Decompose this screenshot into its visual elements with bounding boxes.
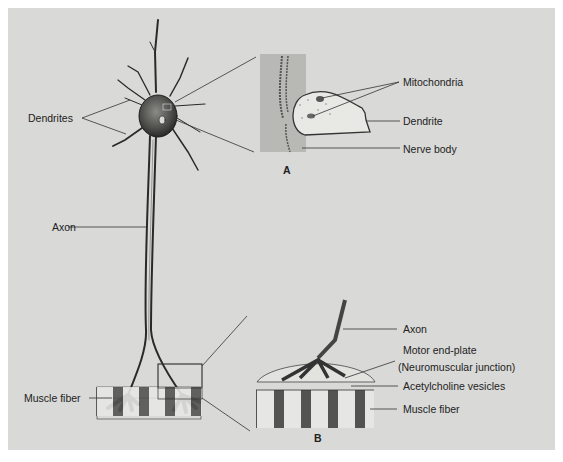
inset-b-illustration: [256, 300, 375, 428]
label-motor-end-plate: Motor end-plate: [403, 344, 477, 356]
main-neuron: [108, 20, 205, 412]
label-acetylcholine-vesicles: Acetylcholine vesicles: [403, 380, 505, 392]
inset-b-letter: B: [314, 432, 322, 444]
label-muscle-fiber: Muscle fiber: [24, 392, 81, 404]
label-dendrite: Dendrite: [403, 115, 443, 127]
label-neuromuscular-junction: (Neuromuscular junction): [398, 361, 515, 373]
main-muscle-fiber: [96, 364, 202, 419]
label-nerve-body: Nerve body: [403, 143, 457, 155]
inset-a-letter: A: [283, 164, 291, 176]
neuron-illustration: [0, 0, 563, 462]
inset-a-illustration: [260, 54, 370, 152]
label-mitochondria: Mitochondria: [403, 76, 463, 88]
label-muscle-fiber-b: Muscle fiber: [403, 403, 460, 415]
label-dendrites: Dendrites: [28, 112, 73, 124]
label-axon-b: Axon: [403, 323, 427, 335]
label-axon: Axon: [52, 221, 76, 233]
